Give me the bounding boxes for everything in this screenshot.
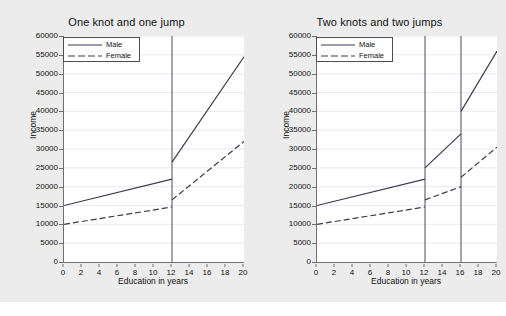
legend-key-solid-icon [68,44,102,46]
series-line-male [317,179,425,205]
x-tick-mark [496,264,497,267]
x-tick-mark [460,264,461,267]
y-tick-label: 60000 [271,32,311,40]
chart-panel-two-knots: Two knots and two jumps 6000055000500004… [253,0,506,302]
x-tick-mark [406,264,407,267]
series-line-female [461,147,497,177]
x-tick-mark [352,264,353,267]
x-tick-mark [135,264,136,267]
y-axis-label: Income [28,90,38,160]
series-line-female [64,207,172,224]
x-tick-mark [316,264,317,267]
legend-label-female: Female [359,51,384,60]
y-tick-label: 30000 [18,145,58,153]
y-tick-label: 55000 [18,51,58,59]
x-tick-mark [370,264,371,267]
x-tick-mark [171,264,172,267]
y-tick-label: 5000 [18,239,58,247]
legend-entry-female: Female [64,50,139,62]
series-line-female [172,141,244,199]
y-tick-label: 45000 [18,89,58,97]
x-tick-mark [334,264,335,267]
x-tick-mark [81,264,82,267]
y-tick-label: 40000 [271,107,311,115]
chart-panel-one-knot: One knot and one jump 600005500050000450… [0,0,253,302]
x-tick-mark [225,264,226,267]
y-tick-label: 60000 [18,32,58,40]
y-tick-label: 20000 [18,183,58,191]
series-line-male [425,134,461,168]
y-tick-label: 5000 [271,239,311,247]
x-tick-mark [117,264,118,267]
y-tick-label: 25000 [18,164,58,172]
y-tick-label: 10000 [271,220,311,228]
legend-label-male: Male [106,40,122,49]
y-tick-label: 10000 [18,220,58,228]
legend-box: Male Female [316,37,393,62]
series-line-male [461,51,497,111]
y-axis-tick-labels: 6000055000500004500040000350003000025000… [18,0,58,262]
x-tick-mark [189,264,190,267]
x-tick-mark [243,264,244,267]
x-tick-mark [63,264,64,267]
x-tick-mark [478,264,479,267]
series-line-male [64,179,172,205]
legend-key-dashed-icon [321,55,355,57]
plot-area [316,36,497,263]
legend-label-female: Female [106,51,131,60]
x-tick-mark [388,264,389,267]
x-axis-label: Education in years [316,276,496,286]
x-tick-mark [424,264,425,267]
series-line-female [425,187,461,200]
legend-entry-female: Female [317,50,392,62]
y-tick-label: 15000 [18,202,58,210]
y-tick-label: 35000 [18,126,58,134]
y-tick-label: 50000 [18,70,58,78]
y-tick-label: 45000 [271,89,311,97]
y-tick-label: 35000 [271,126,311,134]
series-line-female [317,207,425,224]
legend-box: Male Female [63,37,140,62]
legend-label-male: Male [359,40,375,49]
x-tick-mark [153,264,154,267]
y-axis-tick-labels: 6000055000500004500040000350003000025000… [271,0,311,262]
y-tick-label: 50000 [271,70,311,78]
y-tick-label: 30000 [271,145,311,153]
y-tick-label: 55000 [271,51,311,59]
series-line-male [172,57,244,162]
plot-area [63,36,244,263]
plot-lines [64,36,244,262]
legend-key-solid-icon [321,44,355,46]
x-axis-label: Education in years [63,276,243,286]
figure-canvas: One knot and one jump 600005500050000450… [0,0,506,302]
plot-lines [317,36,497,262]
legend-key-dashed-icon [68,55,102,57]
y-tick-label: 25000 [271,164,311,172]
x-tick-mark [207,264,208,267]
x-tick-mark [99,264,100,267]
y-tick-label: 40000 [18,107,58,115]
y-tick-label: 15000 [271,202,311,210]
x-tick-mark [442,264,443,267]
y-tick-label: 20000 [271,183,311,191]
y-axis-label: Income [281,90,291,160]
